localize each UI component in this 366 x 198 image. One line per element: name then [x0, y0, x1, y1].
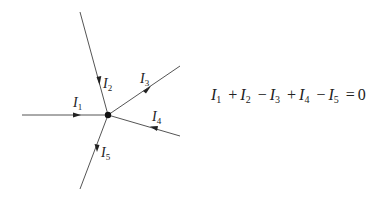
- eq-op-2: −: [255, 86, 270, 103]
- branch-i1: [22, 113, 108, 118]
- label-i1-sub: 1: [78, 102, 83, 112]
- eq-term-2-sub: 2: [246, 94, 251, 105]
- eq-term-4-sub: 4: [304, 94, 309, 105]
- label-i5-sub: 5: [106, 152, 111, 162]
- eq-term-1-sub: 1: [216, 94, 221, 105]
- arrow-i1-icon: [73, 113, 81, 118]
- junction-node: [105, 112, 111, 118]
- eq-term-3-sub: 3: [275, 94, 280, 105]
- eq-op-3: +: [284, 86, 299, 103]
- eq-op-1: +: [225, 86, 240, 103]
- arrow-i2-icon: [97, 76, 102, 85]
- branch-i4: [108, 115, 180, 136]
- label-i1: I1: [73, 96, 82, 112]
- label-i3: I3: [140, 72, 149, 88]
- eq-equals: =: [343, 86, 358, 103]
- eq-term-5-sub: 5: [334, 94, 339, 105]
- label-i4-sub: 4: [157, 116, 162, 126]
- label-i5: I5: [101, 146, 110, 162]
- label-i2: I2: [103, 77, 112, 93]
- eq-op-4: −: [313, 86, 328, 103]
- kcl-equation: I1 +I2 −I3 +I4 −I5 =0: [211, 87, 366, 105]
- arrow-i4-icon: [150, 126, 158, 131]
- eq-rhs: 0: [358, 86, 366, 103]
- label-i2-sub: 2: [108, 83, 113, 93]
- branch-i2: [80, 12, 108, 115]
- label-i4: I4: [152, 110, 161, 126]
- label-i3-sub: 3: [145, 78, 150, 88]
